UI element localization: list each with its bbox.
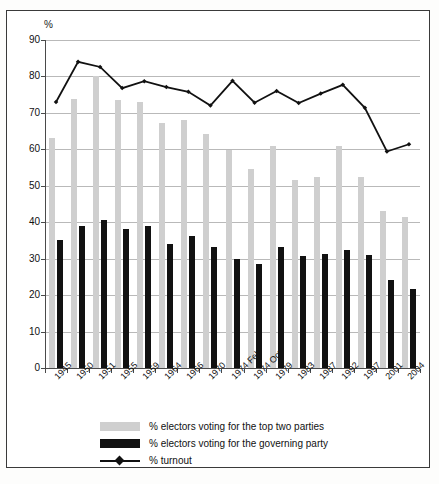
bar-governing-party-1992 bbox=[344, 250, 350, 368]
bar-top-two-parties-1992 bbox=[336, 146, 342, 368]
y-tick-label-20: 20 bbox=[14, 290, 40, 300]
bar-governing-party-1974-Feb bbox=[234, 259, 240, 368]
plot-area bbox=[45, 40, 420, 368]
y-axis-unit-label: % bbox=[44, 20, 53, 30]
bar-top-two-parties-1959 bbox=[137, 102, 143, 368]
y-tick-label-50: 50 bbox=[14, 181, 40, 191]
y-tick-mark-50 bbox=[41, 186, 46, 187]
bar-governing-party-1950 bbox=[79, 226, 85, 368]
bar-top-two-parties-1974-Feb bbox=[226, 150, 232, 368]
y-tick-label-80: 80 bbox=[14, 71, 40, 81]
legend-item-turnout: % turnout bbox=[100, 452, 420, 469]
bar-top-two-parties-1966 bbox=[181, 120, 187, 368]
bar-top-two-parties-2001 bbox=[380, 211, 386, 368]
bar-top-two-parties-1997 bbox=[358, 177, 364, 368]
legend-item-governing-party: % electors voting for the governing part… bbox=[100, 435, 420, 452]
y-tick-label-30: 30 bbox=[14, 254, 40, 264]
y-tick-mark-80 bbox=[41, 76, 46, 77]
y-tick-label-0: 0 bbox=[14, 363, 40, 373]
bar-top-two-parties-1951 bbox=[93, 76, 99, 368]
y-tick-mark-40 bbox=[41, 222, 46, 223]
legend-label: % turnout bbox=[149, 455, 192, 466]
y-tick-mark-20 bbox=[41, 295, 46, 296]
bar-governing-party-1951 bbox=[101, 220, 107, 368]
bar-governing-party-1955 bbox=[123, 229, 129, 368]
chart-figure: % 0102030405060708090 % electors voting … bbox=[0, 0, 439, 484]
bar-top-two-parties-2004 bbox=[402, 217, 408, 368]
legend-item-top-two-parties: % electors voting for the top two partie… bbox=[100, 418, 420, 435]
bar-governing-party-1983 bbox=[300, 256, 306, 368]
gridline-60 bbox=[45, 149, 420, 150]
legend-label: % electors voting for the governing part… bbox=[149, 438, 328, 449]
bar-governing-party-2004 bbox=[410, 289, 416, 368]
black-swatch-icon bbox=[100, 439, 140, 448]
line-marker-swatch-icon bbox=[100, 456, 140, 465]
grey-swatch-icon bbox=[100, 422, 140, 431]
y-tick-label-60: 60 bbox=[14, 144, 40, 154]
bar-top-two-parties-1950 bbox=[71, 99, 77, 368]
gridline-90 bbox=[45, 40, 420, 41]
y-tick-mark-60 bbox=[41, 149, 46, 150]
bar-top-two-parties-1974-Oct bbox=[248, 169, 254, 368]
bar-governing-party-1959 bbox=[145, 226, 151, 368]
chart-legend: % electors voting for the top two partie… bbox=[100, 418, 420, 469]
bar-top-two-parties-1987 bbox=[314, 177, 320, 368]
y-axis-tick-labels: 0102030405060708090 bbox=[10, 0, 40, 484]
bar-governing-party-1945 bbox=[57, 240, 63, 368]
bar-governing-party-1966 bbox=[189, 236, 195, 368]
y-tick-label-10: 10 bbox=[14, 327, 40, 337]
bar-top-two-parties-1979 bbox=[270, 146, 276, 368]
y-tick-mark-30 bbox=[41, 259, 46, 260]
bar-governing-party-1987 bbox=[322, 254, 328, 368]
y-tick-label-90: 90 bbox=[14, 35, 40, 45]
y-tick-mark-70 bbox=[41, 113, 46, 114]
x-tick-mark-0 bbox=[45, 369, 46, 373]
legend-label: % electors voting for the top two partie… bbox=[149, 421, 324, 432]
y-tick-label-40: 40 bbox=[14, 217, 40, 227]
bar-governing-party-1997 bbox=[366, 255, 372, 368]
bar-top-two-parties-1955 bbox=[115, 100, 121, 368]
bar-top-two-parties-1945 bbox=[49, 138, 55, 368]
bar-governing-party-2001 bbox=[388, 280, 394, 368]
bar-top-two-parties-1970 bbox=[203, 134, 209, 368]
gridline-70 bbox=[45, 113, 420, 114]
y-tick-mark-90 bbox=[41, 40, 46, 41]
gridline-80 bbox=[45, 76, 420, 77]
bar-top-two-parties-1983 bbox=[292, 180, 298, 368]
y-tick-label-70: 70 bbox=[14, 108, 40, 118]
bar-governing-party-1964 bbox=[167, 244, 173, 368]
y-tick-mark-10 bbox=[41, 332, 46, 333]
bar-top-two-parties-1964 bbox=[159, 123, 165, 368]
bar-governing-party-1970 bbox=[211, 247, 217, 368]
